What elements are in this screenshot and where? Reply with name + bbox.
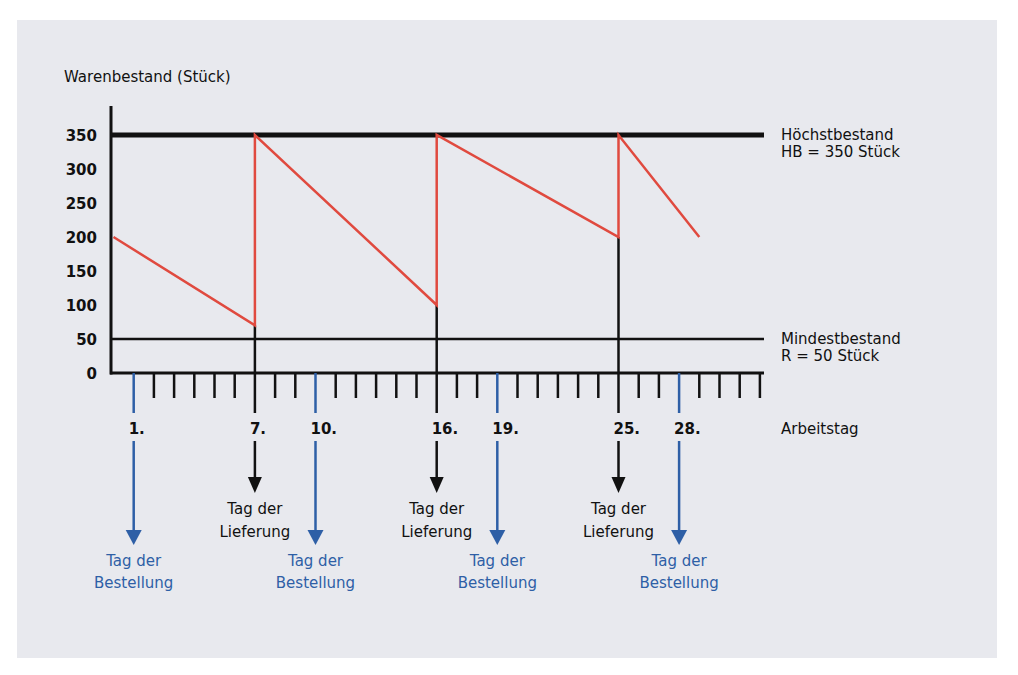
- reference-value-label: R = 50 Stück: [781, 347, 880, 365]
- delivery-label: Tag der: [408, 500, 465, 518]
- stock-level-line: [114, 135, 700, 325]
- arrow-down-icon: [308, 530, 324, 545]
- arrow-down-icon: [489, 530, 505, 545]
- order-label: Bestellung: [94, 574, 173, 592]
- y-tick-label: 150: [66, 263, 97, 281]
- x-tick-label: 28.: [674, 420, 701, 438]
- order-label: Tag der: [287, 552, 344, 570]
- y-tick-label: 350: [66, 127, 97, 145]
- x-tick-label: 25.: [614, 420, 641, 438]
- reference-value-label: HB = 350 Stück: [781, 143, 900, 161]
- x-tick-label: 10.: [311, 420, 338, 438]
- x-tick-label: 16.: [432, 420, 459, 438]
- reference-label: Höchstbestand: [781, 126, 894, 144]
- order-label: Tag der: [105, 552, 162, 570]
- delivery-label: Tag der: [590, 500, 647, 518]
- y-tick-label: 0: [87, 365, 97, 383]
- arrow-down-icon: [126, 530, 142, 545]
- y-tick-label: 50: [76, 331, 97, 349]
- arrow-down-icon: [671, 530, 687, 545]
- order-label: Bestellung: [458, 574, 537, 592]
- order-label: Bestellung: [276, 574, 355, 592]
- inventory-chart: Warenbestand (Stück)05010015020025030035…: [0, 0, 1018, 675]
- y-tick-label: 300: [66, 161, 97, 179]
- delivery-label: Lieferung: [219, 523, 290, 541]
- order-label: Tag der: [469, 552, 526, 570]
- arrow-down-icon: [612, 477, 626, 493]
- order-label: Tag der: [651, 552, 708, 570]
- y-tick-label: 100: [66, 297, 97, 315]
- delivery-label: Lieferung: [401, 523, 472, 541]
- x-tick-label: 19.: [492, 420, 519, 438]
- reference-label: Mindestbestand: [781, 330, 901, 348]
- arrow-down-icon: [248, 477, 262, 493]
- y-tick-label: 250: [66, 195, 97, 213]
- x-tick-label: 7.: [250, 420, 266, 438]
- y-axis-title: Warenbestand (Stück): [64, 68, 231, 86]
- y-tick-label: 200: [66, 229, 97, 247]
- x-tick-label: 1.: [129, 420, 145, 438]
- x-axis-title: Arbeitstag: [781, 420, 859, 438]
- delivery-label: Lieferung: [583, 523, 654, 541]
- order-label: Bestellung: [639, 574, 718, 592]
- delivery-label: Tag der: [226, 500, 283, 518]
- arrow-down-icon: [430, 477, 444, 493]
